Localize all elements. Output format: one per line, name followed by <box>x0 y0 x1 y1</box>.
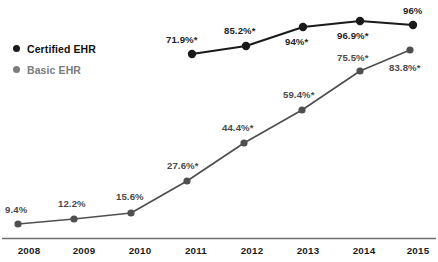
basic-point-2013 <box>298 106 305 113</box>
legend-marker-icon-basic <box>13 66 20 73</box>
x-axis-tick-2012: 2012 <box>241 245 264 256</box>
data-label-certified-2014: 96.9%* <box>337 30 369 41</box>
x-axis-tick-2010: 2010 <box>129 245 152 256</box>
basic-point-2011 <box>183 177 190 184</box>
x-axis-tick-2009: 2009 <box>73 245 96 256</box>
data-label-certified-2015: 96% <box>403 5 423 16</box>
data-label-basic-2011: 27.6%* <box>167 160 199 171</box>
data-label-basic-2013: 59.4%* <box>283 89 315 100</box>
data-label-basic-2012: 44.4%* <box>222 122 254 133</box>
data-label-certified-2013: 94%* <box>285 36 308 47</box>
certified-point-2014 <box>356 17 364 25</box>
certified-point-2015 <box>409 21 417 29</box>
legend-label-certified: Certified EHR <box>27 43 96 55</box>
basic-point-2015 <box>406 46 413 53</box>
certified-point-2013 <box>299 23 307 31</box>
chart-legend: Certified EHR Basic EHR <box>13 38 96 80</box>
legend-marker-icon-certified <box>13 45 20 52</box>
basic-point-2009 <box>70 215 77 222</box>
basic-point-2008 <box>14 220 21 227</box>
data-label-basic-2015: 83.8%* <box>389 62 421 73</box>
data-label-certified-2012: 85.2%* <box>224 25 256 36</box>
basic-point-2014 <box>356 67 363 74</box>
legend-item-certified: Certified EHR <box>13 38 96 59</box>
x-axis-tick-2015: 2015 <box>407 245 430 256</box>
x-axis-tick-2014: 2014 <box>353 245 376 256</box>
data-label-basic-2014: 75.5%* <box>337 52 369 63</box>
data-label-basic-2009: 12.2% <box>58 198 86 209</box>
x-axis-tick-2013: 2013 <box>297 245 320 256</box>
ehr-adoption-line-chart: Certified EHR Basic EHR 71.9%* 85.2%* 94… <box>0 0 438 262</box>
data-label-basic-2008: 9.4% <box>5 204 27 215</box>
basic-point-2012 <box>240 139 247 146</box>
legend-label-basic: Basic EHR <box>27 64 81 76</box>
certified-point-2012 <box>242 42 250 50</box>
data-label-certified-2011: 71.9%* <box>166 34 198 45</box>
legend-item-basic: Basic EHR <box>13 59 96 80</box>
x-axis-tick-2011: 2011 <box>185 245 207 256</box>
basic-point-2010 <box>127 209 134 216</box>
data-label-basic-2010: 15.6% <box>116 191 144 202</box>
x-axis-tick-2008: 2008 <box>18 245 41 256</box>
certified-point-2011 <box>188 50 196 58</box>
